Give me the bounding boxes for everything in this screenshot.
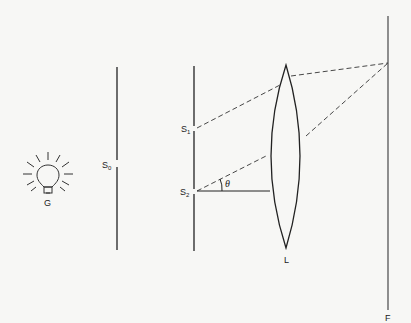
light-rays bbox=[197, 63, 388, 191]
label-g: G bbox=[44, 198, 51, 208]
label-s0: S0 bbox=[102, 160, 112, 171]
label-s2: S2 bbox=[180, 187, 190, 198]
label-f: F bbox=[385, 313, 391, 323]
angle-arc bbox=[220, 179, 222, 191]
label-s1: S1 bbox=[181, 124, 191, 135]
label-theta: θ bbox=[225, 178, 230, 189]
label-l: L bbox=[284, 255, 289, 265]
light-bulb-icon bbox=[23, 152, 73, 193]
lens bbox=[271, 65, 300, 248]
diagram-canvas: G S0 S1 S2 θ L F bbox=[0, 0, 411, 323]
